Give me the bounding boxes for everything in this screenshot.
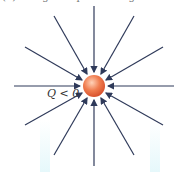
charge-label: Q < 0 [47, 87, 79, 100]
negative-charge-sphere [83, 75, 105, 97]
field-lines-diagram [0, 0, 182, 172]
